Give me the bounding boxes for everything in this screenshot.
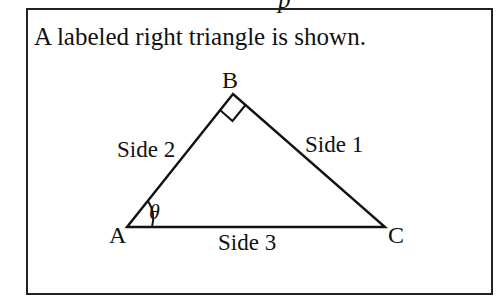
theta-label: θ: [149, 199, 160, 224]
side-2-label: Side 2: [117, 137, 175, 162]
vertex-label-b: B: [222, 67, 238, 93]
right-triangle-diagram: B A C Side 2 Side 1 Side 3 θ: [0, 0, 501, 302]
side-3-label: Side 3: [218, 230, 276, 255]
side-1-label: Side 1: [305, 132, 363, 157]
vertex-label-a: A: [109, 222, 127, 248]
vertex-label-c: C: [388, 222, 404, 248]
